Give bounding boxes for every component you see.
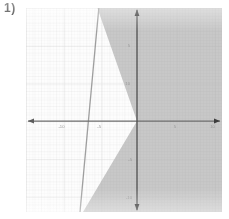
coordinate-plane-graph: 10 5 -5 -10 -10 -5 5 10 <box>26 8 222 212</box>
y-tick-label-neg10: -10 <box>126 195 133 200</box>
graph-svg: 10 5 -5 -10 -10 -5 5 10 <box>26 8 222 212</box>
x-tick-label-10: 10 <box>210 124 215 129</box>
x-tick-label-neg5: -5 <box>97 124 101 129</box>
y-tick-label-10: 10 <box>125 81 130 86</box>
problem-number-label: 1) <box>4 2 16 14</box>
worksheet-page: 1) <box>0 0 229 219</box>
x-tick-label-neg10: -10 <box>58 124 65 129</box>
